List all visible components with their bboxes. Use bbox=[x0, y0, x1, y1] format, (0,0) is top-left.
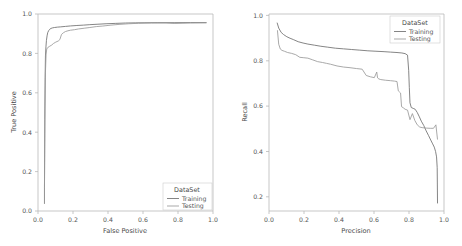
pr-xlabel: Precision bbox=[341, 227, 370, 235]
pr-axes-frame bbox=[269, 14, 444, 211]
pr-x-axis: 0.0 0.2 0.4 0.6 0.8 1.0 bbox=[264, 211, 449, 223]
figure-container: 0.0 0.2 0.4 0.6 0.8 1.0 0.0 0.2 0.4 0.6 … bbox=[0, 0, 462, 246]
roc-axes-frame bbox=[38, 14, 213, 211]
roc-x-axis: 0.0 0.2 0.4 0.6 0.8 1.0 bbox=[33, 211, 218, 223]
roc-series-group bbox=[44, 23, 206, 204]
pr-legend: DataSet Training Testing bbox=[390, 16, 440, 43]
chart-panel-roc: 0.0 0.2 0.4 0.6 0.8 1.0 0.0 0.2 0.4 0.6 … bbox=[0, 0, 231, 246]
roc-xtick-5: 1.0 bbox=[208, 216, 218, 223]
roc-legend-title: DataSet bbox=[174, 186, 200, 194]
pr-ylabel: Recall bbox=[241, 102, 249, 122]
pr-series-group bbox=[277, 23, 437, 204]
pr-xtick-4: 0.8 bbox=[404, 216, 414, 223]
roc-ytick-2: 0.4 bbox=[22, 129, 32, 136]
pr-legend-label-testing: Testing bbox=[408, 35, 431, 43]
roc-curve-training bbox=[44, 23, 206, 204]
pr-ytick-1: 0.4 bbox=[253, 148, 263, 155]
pr-xtick-0: 0.0 bbox=[264, 216, 274, 223]
roc-ylabel: True Positive bbox=[10, 91, 18, 134]
roc-ytick-4: 0.8 bbox=[22, 50, 32, 57]
roc-ytick-5: 1.0 bbox=[22, 10, 32, 17]
pr-curve-training bbox=[277, 23, 437, 204]
pr-xtick-3: 0.6 bbox=[369, 216, 379, 223]
roc-xtick-0: 0.0 bbox=[33, 216, 43, 223]
pr-ytick-3: 0.8 bbox=[253, 57, 263, 64]
roc-ytick-3: 0.6 bbox=[22, 89, 32, 96]
roc-y-axis: 0.0 0.2 0.4 0.6 0.8 1.0 bbox=[22, 10, 38, 214]
pr-curve-testing bbox=[277, 30, 437, 139]
pr-xtick-5: 1.0 bbox=[439, 216, 449, 223]
pr-xtick-1: 0.2 bbox=[299, 216, 309, 223]
pr-legend-title: DataSet bbox=[402, 19, 428, 27]
roc-curve-testing bbox=[44, 23, 206, 204]
roc-plot-svg: 0.0 0.2 0.4 0.6 0.8 1.0 0.0 0.2 0.4 0.6 … bbox=[0, 0, 231, 246]
pr-y-axis: 0.2 0.4 0.6 0.8 1.0 bbox=[253, 12, 269, 200]
chart-panel-precision-recall: 0.2 0.4 0.6 0.8 1.0 0.0 0.2 0.4 0.6 0.8 … bbox=[231, 0, 462, 246]
pr-xtick-2: 0.4 bbox=[334, 216, 344, 223]
roc-xlabel: False Positive bbox=[103, 227, 147, 235]
roc-xtick-2: 0.4 bbox=[103, 216, 113, 223]
roc-ytick-0: 0.0 bbox=[22, 207, 32, 214]
roc-ytick-1: 0.2 bbox=[22, 168, 32, 175]
roc-xtick-3: 0.6 bbox=[138, 216, 148, 223]
pr-ytick-0: 0.2 bbox=[253, 193, 263, 200]
pr-ytick-2: 0.6 bbox=[253, 102, 263, 109]
roc-legend-label-testing: Testing bbox=[181, 202, 204, 210]
pr-ytick-4: 1.0 bbox=[253, 12, 263, 19]
roc-legend: DataSet Training Testing bbox=[163, 183, 212, 210]
roc-xtick-1: 0.2 bbox=[68, 216, 78, 223]
pr-plot-svg: 0.2 0.4 0.6 0.8 1.0 0.0 0.2 0.4 0.6 0.8 … bbox=[231, 0, 462, 246]
roc-xtick-4: 0.8 bbox=[173, 216, 183, 223]
